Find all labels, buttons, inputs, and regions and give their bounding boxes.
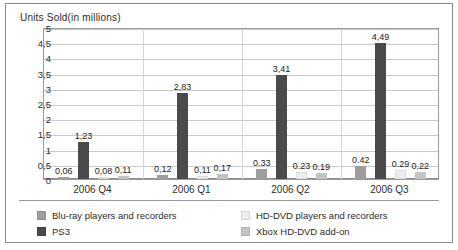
legend-label: Xbox HD-DVD add-on: [256, 226, 349, 237]
y-axis-tick-label: 3,5: [17, 68, 51, 79]
legend-color-swatch: [37, 211, 46, 220]
x-axis-category-label: 2006 Q1: [172, 184, 210, 195]
chart-title: Units Sold(in millions): [20, 12, 121, 23]
bar-value-label: 0.33: [253, 158, 271, 168]
chart-frame: Units Sold(in millions) 0,061,230,080,11…: [5, 3, 453, 243]
bar: [197, 176, 208, 179]
gridline: [44, 29, 438, 30]
bar: [415, 172, 426, 179]
group-separator: [143, 29, 144, 179]
y-axis-tick-label: 3: [17, 83, 51, 94]
bar: [296, 172, 307, 179]
bar-value-label: 0.29: [392, 159, 410, 169]
bar: [355, 166, 366, 179]
legend-label: Blu-ray players and recorders: [52, 210, 177, 221]
bar-value-label: 3,41: [273, 64, 291, 74]
legend-color-swatch: [241, 227, 250, 236]
bar: [177, 93, 188, 179]
bar-value-label: 0,08: [95, 166, 113, 176]
x-axis-category-label: 2006 Q2: [271, 184, 309, 195]
y-axis-tick-label: 0: [17, 175, 51, 186]
bar-value-label: 0,06: [55, 166, 73, 176]
bar: [78, 142, 89, 179]
bar-value-label: 4,49: [372, 32, 390, 42]
x-axis-category-label: 2006 Q3: [370, 184, 408, 195]
bar: [98, 177, 109, 179]
bar-value-label: 0,12: [154, 164, 172, 174]
group-separator: [341, 29, 342, 179]
bar: [157, 175, 168, 179]
y-axis-tick-label: 4,5: [17, 38, 51, 49]
bar-value-label: 0,17: [213, 163, 231, 173]
y-axis-tick-label: 1: [17, 144, 51, 155]
bar: [256, 169, 267, 179]
y-axis-tick-label: 2: [17, 114, 51, 125]
chart-legend: Blu-ray players and recordersPS3HD-DVD p…: [19, 200, 439, 236]
plot-area: 0,061,230,080,110,122,830,110,170.333,41…: [43, 28, 439, 180]
legend-color-swatch: [241, 211, 250, 220]
bar-value-label: 0.22: [411, 161, 429, 171]
legend-item[interactable]: Xbox HD-DVD add-on: [241, 226, 349, 237]
bar: [118, 176, 129, 179]
bar-value-label: 2,83: [174, 82, 192, 92]
bar-value-label: 0.23: [293, 161, 311, 171]
bar-value-label: 0.19: [312, 162, 330, 172]
bar-value-label: 0.42: [352, 155, 370, 165]
bar: [276, 75, 287, 179]
bar-value-label: 1,23: [75, 131, 93, 141]
bar-value-label: 0,11: [194, 165, 211, 175]
bar: [58, 177, 69, 179]
x-axis-category-label: 2006 Q4: [73, 184, 111, 195]
bar: [375, 43, 386, 179]
legend-color-swatch: [37, 227, 46, 236]
bar-value-label: 0,11: [115, 165, 132, 175]
y-axis-tick-label: 1,5: [17, 129, 51, 140]
y-axis-tick-label: 2,5: [17, 99, 51, 110]
y-axis-tick-label: 0,5: [17, 159, 51, 170]
bar: [395, 170, 406, 179]
legend-item[interactable]: PS3: [37, 226, 70, 237]
legend-item[interactable]: HD-DVD players and recorders: [241, 210, 387, 221]
legend-label: HD-DVD players and recorders: [256, 210, 387, 221]
y-axis-tick-label: 4: [17, 53, 51, 64]
legend-label: PS3: [52, 226, 70, 237]
group-separator: [242, 29, 243, 179]
bar: [316, 173, 327, 179]
bar: [217, 174, 228, 179]
legend-item[interactable]: Blu-ray players and recorders: [37, 210, 177, 221]
y-axis-tick-label: 5: [17, 23, 51, 34]
